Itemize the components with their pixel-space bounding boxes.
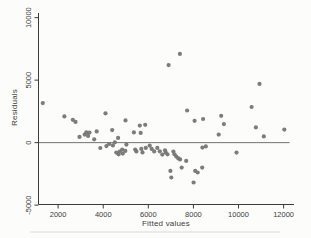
- plot-area: -500005000100002000400060008000100001200…: [0, 0, 311, 238]
- data-point: [110, 128, 114, 132]
- residuals-vs-fitted-scatter-plot: -500005000100002000400060008000100001200…: [0, 0, 311, 238]
- data-point: [155, 146, 159, 150]
- data-point: [95, 129, 99, 133]
- data-point: [196, 170, 200, 174]
- data-point: [201, 117, 205, 121]
- data-point: [98, 146, 102, 150]
- data-point: [124, 143, 128, 147]
- data-point: [169, 175, 173, 179]
- data-point: [185, 108, 189, 112]
- data-point: [234, 151, 238, 155]
- data-point: [262, 134, 266, 138]
- data-point: [222, 122, 226, 126]
- data-point: [167, 63, 171, 67]
- data-point: [257, 82, 261, 86]
- data-point: [254, 125, 258, 129]
- x-tick-label: 2000: [50, 210, 67, 219]
- data-point: [140, 150, 144, 154]
- x-axis-title: Fitted values: [106, 218, 226, 230]
- data-point: [180, 166, 184, 170]
- data-point: [107, 142, 111, 146]
- data-point: [250, 105, 254, 109]
- data-point: [165, 152, 169, 156]
- data-point: [200, 166, 204, 170]
- data-point: [217, 133, 221, 137]
- x-tick-label: 10000: [228, 210, 249, 219]
- data-point: [138, 124, 142, 128]
- data-point: [178, 157, 182, 161]
- data-point: [113, 140, 117, 144]
- data-point: [193, 119, 197, 123]
- data-point: [87, 131, 91, 135]
- data-point: [192, 180, 196, 184]
- data-point: [77, 135, 81, 139]
- data-point: [178, 52, 182, 56]
- data-point: [134, 149, 138, 153]
- data-point: [62, 114, 66, 118]
- data-point: [143, 123, 147, 127]
- y-axis-title: Residuals: [8, 58, 21, 158]
- data-point: [41, 101, 45, 105]
- data-point: [103, 111, 107, 115]
- data-point: [282, 128, 286, 132]
- scan-artifact: [30, 231, 280, 233]
- data-point: [92, 137, 96, 141]
- data-point: [123, 149, 127, 153]
- y-tick-label: 10000: [24, 7, 33, 28]
- y-tick-label: -5000: [24, 196, 33, 215]
- y-tick-label: 0: [24, 141, 33, 145]
- data-point: [184, 159, 188, 163]
- y-tick-label: 5000: [24, 72, 33, 89]
- data-point: [204, 144, 208, 148]
- data-point: [152, 149, 156, 153]
- x-tick-label: 12000: [273, 210, 294, 219]
- data-point: [168, 169, 172, 173]
- data-point: [144, 146, 148, 150]
- data-point: [116, 136, 120, 140]
- data-point: [123, 118, 127, 122]
- data-point: [73, 120, 77, 124]
- data-point: [139, 131, 143, 135]
- data-point: [132, 130, 136, 134]
- data-point: [219, 114, 223, 118]
